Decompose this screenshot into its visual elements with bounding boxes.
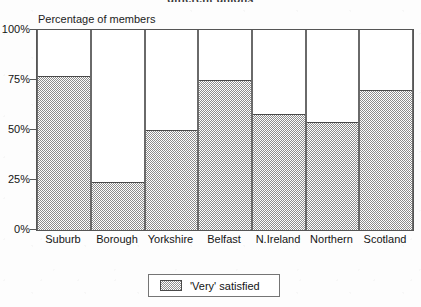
x-tick-label-suburb: Suburb [36, 233, 90, 245]
y-tick-label-50: 50% [0, 123, 30, 135]
x-tick-label-belfast: Belfast [197, 233, 251, 245]
bar-slot-borough [91, 30, 145, 230]
bar-northern[interactable] [307, 122, 358, 230]
bar-slot-yorkshire [145, 30, 198, 230]
bar-nireland[interactable] [253, 114, 305, 230]
bar-belfast[interactable] [199, 80, 251, 230]
x-tick-label-yorkshire: Yorkshire [144, 233, 197, 245]
y-tick-label-0: 0% [0, 223, 30, 235]
bar-slot-suburb [37, 30, 91, 230]
legend-label-very-satisfied: 'Very' satisfied [190, 280, 260, 292]
chart-legend: 'Very' satisfied [148, 274, 280, 297]
bars-layer [37, 30, 413, 230]
bar-slot-nireland [252, 30, 306, 230]
bar-slot-northern [306, 30, 359, 230]
x-tick-label-nireland: N.Ireland [251, 233, 305, 245]
x-tick-label-northern: Northern [305, 233, 358, 245]
bar-suburb[interactable] [38, 76, 90, 230]
x-tick-label-scotland: Scotland [358, 233, 412, 245]
y-tick-label-100: 100% [0, 23, 30, 35]
legend-swatch-icon [160, 280, 182, 291]
y-tick-label-75: 75% [0, 73, 30, 85]
bar-yorkshire[interactable] [146, 130, 197, 230]
plot-area [36, 29, 414, 231]
y-tick-label-25: 25% [0, 173, 30, 185]
y-axis-title: Percentage of members [38, 13, 155, 25]
bar-slot-belfast [198, 30, 252, 230]
x-tick-label-borough: Borough [90, 233, 144, 245]
bar-slot-scotland [359, 30, 413, 230]
bar-scotland[interactable] [360, 90, 412, 230]
bar-borough[interactable] [92, 182, 144, 230]
document-title: different unions [0, 0, 421, 2]
